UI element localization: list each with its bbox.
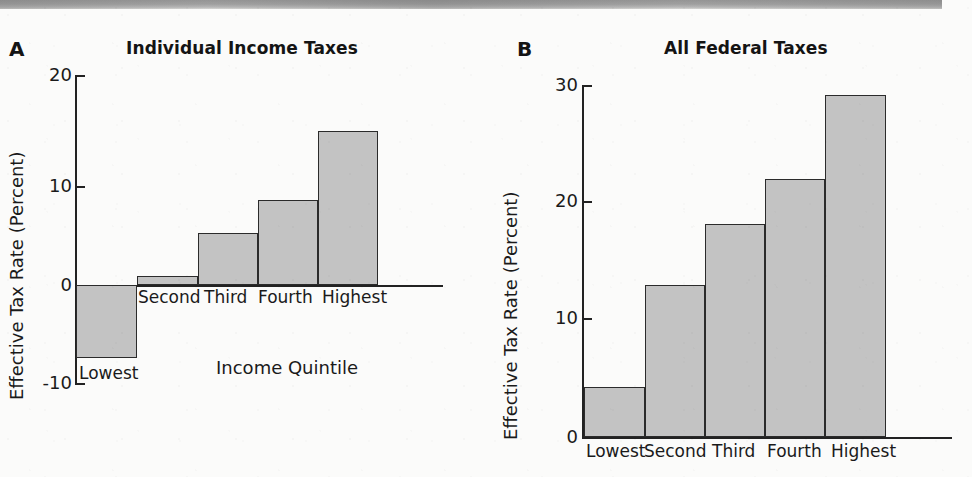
- panel-b-cat-label-lowest: Lowest: [586, 441, 645, 461]
- panel-a-bar-third: [198, 233, 258, 285]
- panel-a-tick-label-neg10: -10: [14, 372, 72, 393]
- panel-b-tick-20: [584, 201, 592, 203]
- panel-b-y-axis-title: Effective Tax Rate (Percent): [500, 192, 521, 440]
- panel-b-letter: B: [517, 37, 533, 61]
- panel-a-cat-label-fourth: Fourth: [258, 287, 313, 307]
- panel-b-cat-label-second: Second: [644, 441, 707, 461]
- panel-b-tick-10: [584, 318, 592, 320]
- panel-a: A Individual Income Taxes Effective Tax …: [0, 0, 486, 477]
- panel-a-bar-lowest: [76, 285, 137, 358]
- panel-a-bar-second: [137, 276, 198, 285]
- panel-a-letter: A: [9, 37, 25, 61]
- panel-a-bar-fourth: [258, 200, 318, 285]
- panel-b-tick-label-0: 0: [528, 426, 578, 447]
- panel-a-title: Individual Income Taxes: [126, 38, 358, 58]
- panel-b-y-axis-line: [582, 85, 584, 439]
- panel-b-cat-label-third: Third: [712, 441, 755, 461]
- panel-b-bar-third: [705, 224, 765, 437]
- panel-b: B All Federal Taxes Effective Tax Rate (…: [486, 0, 972, 477]
- panel-a-x-axis-title: Income Quintile: [216, 357, 358, 378]
- panel-b-tick-0: [584, 437, 592, 439]
- panel-a-tick-label-20: 20: [22, 64, 72, 85]
- panel-b-bar-fourth: [765, 179, 825, 437]
- panel-a-tick-neg10: [77, 383, 85, 385]
- panel-b-tick-label-20: 20: [528, 190, 578, 211]
- panel-b-tick-30: [584, 85, 592, 87]
- panel-b-zero-line: [582, 437, 952, 439]
- panel-a-cat-label-third: Third: [204, 287, 247, 307]
- panel-b-tick-label-10: 10: [528, 307, 578, 328]
- panel-b-tick-label-30: 30: [528, 74, 578, 95]
- panel-b-cat-label-fourth: Fourth: [767, 441, 822, 461]
- panel-a-cat-label-highest: Highest: [322, 287, 387, 307]
- panel-a-tick-label-0: 0: [22, 274, 72, 295]
- panel-b-bar-second: [645, 285, 705, 437]
- panel-a-bar-highest: [318, 131, 378, 285]
- panel-b-cat-label-highest: Highest: [831, 441, 896, 461]
- panel-a-cat-label-lowest: Lowest: [79, 363, 138, 383]
- panel-a-tick-label-10: 10: [22, 175, 72, 196]
- panel-b-bar-highest: [825, 95, 886, 437]
- panel-b-title: All Federal Taxes: [664, 38, 828, 58]
- panel-b-bar-lowest: [584, 387, 645, 437]
- panel-a-tick-10: [77, 186, 85, 188]
- panel-a-tick-20: [77, 75, 85, 77]
- panel-a-cat-label-second: Second: [138, 287, 201, 307]
